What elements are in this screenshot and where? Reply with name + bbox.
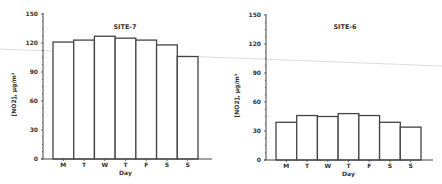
x-axis-label: Day bbox=[342, 170, 355, 178]
chart-canvas: MTWTFSS0306090120150SITE-7Day[NO2], µg/m… bbox=[0, 0, 442, 184]
bar-4 bbox=[359, 116, 380, 160]
bar-3 bbox=[338, 114, 359, 160]
site-7-chart: MTWTFSS0306090120150SITE-7Day[NO2], µg/m… bbox=[10, 10, 212, 177]
y-tick-label: 30 bbox=[253, 127, 261, 134]
y-tick-label: 90 bbox=[253, 69, 261, 76]
bar-0 bbox=[276, 122, 297, 160]
y-tick-label: 60 bbox=[253, 98, 261, 105]
x-axis-label: Day bbox=[119, 169, 132, 177]
x-tick-label: M bbox=[60, 161, 66, 168]
bar-5 bbox=[157, 45, 178, 159]
bar-6 bbox=[177, 57, 198, 159]
y-tick-label: 150 bbox=[25, 10, 38, 17]
x-tick-label: W bbox=[324, 162, 331, 169]
x-tick-label: S bbox=[408, 162, 412, 169]
x-tick-label: S bbox=[388, 162, 392, 169]
x-tick-label: S bbox=[165, 161, 169, 168]
bar-2 bbox=[317, 117, 338, 161]
y-axis-label: [NO2], µg/m³ bbox=[10, 72, 18, 116]
bar-2 bbox=[94, 36, 115, 159]
x-tick-label: M bbox=[283, 162, 289, 169]
x-tick-label: F bbox=[367, 162, 371, 169]
y-tick-label: 120 bbox=[25, 39, 38, 46]
x-tick-label: T bbox=[123, 161, 128, 168]
y-tick-label: 0 bbox=[34, 155, 38, 162]
site-6-chart: MTWTFSS0306090120150SITE-6Day[NO2], µg/m… bbox=[233, 11, 433, 178]
x-tick-label: W bbox=[101, 161, 108, 168]
y-tick-label: 0 bbox=[257, 156, 261, 163]
bar-6 bbox=[400, 127, 421, 160]
x-tick-label: S bbox=[185, 161, 189, 168]
bar-0 bbox=[53, 42, 74, 159]
bar-1 bbox=[74, 40, 95, 159]
y-tick-label: 150 bbox=[248, 11, 261, 18]
y-tick-label: 60 bbox=[30, 97, 38, 104]
chart-title: SITE-6 bbox=[333, 23, 357, 31]
x-tick-label: T bbox=[305, 162, 310, 169]
bar-4 bbox=[136, 40, 157, 159]
bar-1 bbox=[297, 116, 318, 160]
chart-title: SITE-7 bbox=[113, 23, 136, 31]
x-tick-label: T bbox=[82, 161, 87, 168]
y-tick-label: 90 bbox=[30, 68, 38, 75]
y-axis-label: [NO2], µg/m³ bbox=[233, 73, 241, 117]
y-tick-label: 30 bbox=[30, 126, 38, 133]
y-tick-label: 120 bbox=[248, 40, 261, 47]
x-tick-label: T bbox=[346, 162, 351, 169]
x-tick-label: F bbox=[144, 161, 148, 168]
bar-3 bbox=[115, 38, 136, 159]
bar-5 bbox=[380, 122, 401, 160]
